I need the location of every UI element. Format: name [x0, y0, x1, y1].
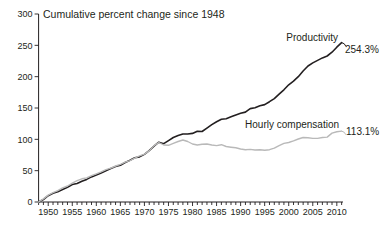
x-tick-label: 1990	[231, 207, 251, 217]
y-tick-label: 200	[18, 72, 33, 82]
x-tick-label: 2000	[279, 207, 299, 217]
x-tick-label: 1980	[183, 207, 203, 217]
productivity-compensation-chart: 0501001502002503001950195519601965197019…	[0, 0, 381, 229]
compensation-end-value: 113.1%	[346, 126, 379, 137]
y-tick-label: 100	[18, 135, 33, 145]
x-tick-label: 1965	[110, 207, 130, 217]
y-tick-label: 0	[28, 197, 33, 207]
compensation-series-label: Hourly compensation	[0, 119, 339, 130]
productivity-end-value: 254.3%	[345, 44, 379, 55]
chart-title: Cumulative percent change since 1948	[43, 8, 225, 20]
x-tick-label: 2010	[327, 207, 347, 217]
y-tick-label: 150	[18, 103, 33, 113]
x-tick-label: 2005	[303, 207, 323, 217]
x-tick-label: 1995	[255, 207, 275, 217]
productivity-series-label: Productivity	[0, 32, 338, 43]
x-tick-label: 1970	[134, 207, 154, 217]
x-tick-label: 1985	[207, 207, 227, 217]
compensation-line	[39, 131, 342, 202]
y-tick-label: 50	[23, 166, 33, 176]
x-tick-label: 1975	[158, 207, 178, 217]
x-tick-label: 1950	[38, 207, 58, 217]
x-tick-label: 1955	[62, 207, 82, 217]
y-tick-label: 300	[18, 9, 33, 19]
x-tick-label: 1960	[86, 207, 106, 217]
